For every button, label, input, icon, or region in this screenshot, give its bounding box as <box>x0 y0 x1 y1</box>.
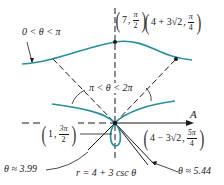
point-4plus3root2-pi-over-4 <box>174 57 178 61</box>
label-point-1-3pi-over-2: ( 1,3π2 ) <box>40 122 78 146</box>
label-point-4plus3root2-pi-over-4: ( 4 + 3√2,π4 ) <box>143 10 203 34</box>
axis-label: A <box>190 109 197 120</box>
label-lower-branch: π < θ < 2π <box>88 83 133 93</box>
label-theta-399: θ ≈ 3.99 <box>4 164 37 174</box>
origin-point <box>113 121 117 125</box>
leader-theta-544 <box>154 163 178 172</box>
point-7-pi-over-2 <box>113 40 117 44</box>
upper-branch-curve <box>22 41 192 64</box>
equation-label: r = 4 + 3 csc θ <box>76 168 136 178</box>
label-point-4minus3root2-5pi-over-4: ( 4 − 3√2,5π4 ) <box>142 126 206 150</box>
polar-diagram: 0 < θ < π π < θ < 2π ( 7,π2 ) ( 4 + 3√2,… <box>0 0 224 185</box>
label-upper-branch: 0 < θ < π <box>22 27 60 37</box>
label-theta-544: θ ≈ 5.44 <box>178 166 211 176</box>
leader-lower-left <box>72 90 85 104</box>
